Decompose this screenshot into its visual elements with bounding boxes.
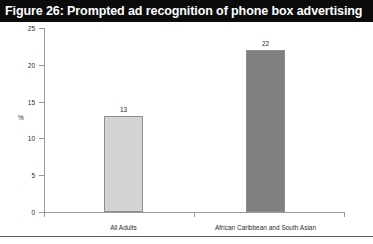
- y-axis-tick: [39, 138, 44, 139]
- y-axis-tick-label: 0: [0, 209, 35, 216]
- plot-area: 0 5 10 15 20 25 % 13 22 All Adults Afric…: [0, 22, 373, 222]
- figure-title: Figure 26: Prompted ad recognition of ph…: [0, 4, 362, 18]
- x-axis-category-label: All Adults: [74, 224, 173, 231]
- y-axis-tick-label: 5: [0, 172, 35, 179]
- y-axis-tick: [39, 28, 44, 29]
- bar-african-caribbean-and-south-asian: [246, 50, 285, 212]
- y-axis-tick-label: 10: [0, 135, 35, 142]
- x-axis-category-label: African Caribbean and South Asian: [196, 224, 335, 231]
- bar-value-label: 22: [246, 40, 285, 47]
- bar-all-adults: [104, 116, 143, 212]
- y-axis-tick: [39, 175, 44, 176]
- y-axis-tick-label: 20: [0, 61, 35, 68]
- bar-value-label: 13: [104, 106, 143, 113]
- y-axis-tick: [39, 102, 44, 103]
- x-axis-tick: [44, 212, 45, 217]
- x-axis-tick: [344, 212, 345, 217]
- y-axis-tick-label: 25: [0, 25, 35, 32]
- y-axis-tick: [39, 65, 44, 66]
- x-axis-tick: [194, 212, 195, 217]
- figure-title-bar: Figure 26: Prompted ad recognition of ph…: [0, 0, 373, 22]
- y-axis-tick-label: 15: [0, 98, 35, 105]
- y-axis-title: %: [18, 114, 24, 121]
- bottom-divider: [0, 236, 373, 237]
- y-axis-line: [44, 28, 45, 213]
- figure-container: Figure 26: Prompted ad recognition of ph…: [0, 0, 373, 244]
